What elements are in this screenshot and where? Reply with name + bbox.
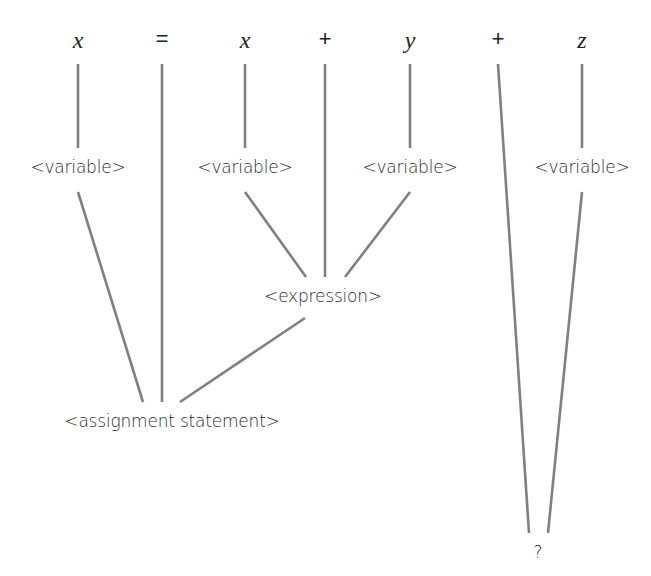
edge-var2-to-expr xyxy=(245,192,306,277)
edge-var1-to-assign xyxy=(78,192,143,402)
unknown-node: ? xyxy=(534,542,543,562)
token-z: z xyxy=(577,27,586,54)
token-equals: = xyxy=(155,28,168,53)
parse-tree-diagram: x = x + y + z <variable> <variable> <var… xyxy=(0,0,651,576)
token-y: y xyxy=(405,27,416,54)
token-x: x xyxy=(73,27,84,54)
token-plus: + xyxy=(491,28,504,53)
expression-node: <expression> xyxy=(264,286,382,306)
edge-plus2-to-unknown xyxy=(498,64,529,533)
token-plus: + xyxy=(318,28,331,53)
edge-var4-to-unknown xyxy=(548,192,582,533)
token-x: x xyxy=(240,27,251,54)
variable-node: <variable> xyxy=(534,157,629,177)
edge-var3-to-expr xyxy=(345,192,410,277)
variable-node: <variable> xyxy=(197,157,292,177)
edge-expr-to-assign xyxy=(180,318,305,402)
assignment-statement-node: <assignment statement> xyxy=(64,411,279,431)
variable-node: <variable> xyxy=(30,157,125,177)
variable-node: <variable> xyxy=(362,157,457,177)
